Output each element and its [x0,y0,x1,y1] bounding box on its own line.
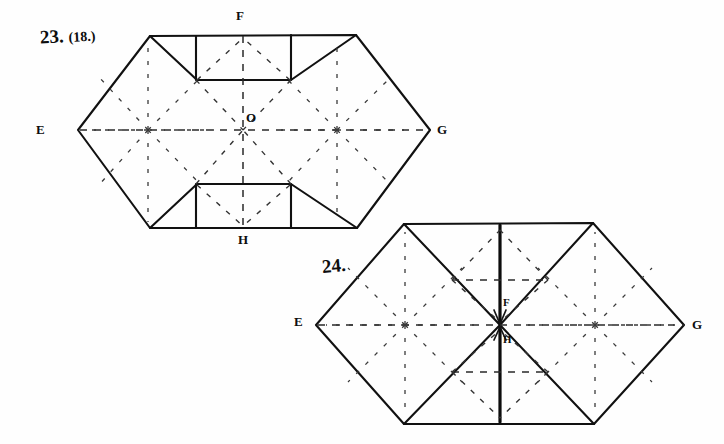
fig23-center-label-O: O [246,110,256,126]
fig24-lower-left-fold [404,325,500,424]
fig23-vertex-label-F: F [236,8,244,24]
fig23-left-star-creases [84,40,214,222]
figure-23-number: 23. (18.) [39,24,95,49]
fig24-right-star-creases [520,232,674,416]
fig23-vertex-label-H: H [238,232,248,248]
fig24-upper-left-fold [404,224,500,325]
fig24-upper-right-fold [500,223,593,325]
fig24-vertex-label-H: H [503,333,512,345]
fig23-top-left-diagonal [150,36,197,80]
figure-24-group [316,223,684,424]
fig24-vertex-label-G: G [692,317,702,333]
fig23-vertex-label-G: G [437,122,447,138]
fig23-top-flap-creases [197,38,290,80]
fig23-vertex-label-E: E [36,122,45,138]
fig23-bottom-left-diagonal [150,184,197,228]
paper-sheet: 23. (18.) E G F H O 24. E G F H [0,0,724,444]
fig24-vertex-label-E: E [294,314,303,330]
figure-23-number-text: 23. [39,25,64,47]
fig23-top-right-diagonal [291,35,356,80]
fig24-lower-right-fold [500,325,594,424]
diagram-canvas [0,0,724,444]
fig23-hexagon-outline [78,35,430,228]
fig24-vertex-label-F: F [503,296,510,308]
fig24-left-star-creases [326,232,480,416]
fig23-bottom-right-diagonal [291,184,357,228]
figure-23-alt-number-text: (18.) [68,29,96,45]
figure-24-number-text: 24. [321,254,346,277]
figure-23-group [78,35,430,228]
figure-24-number: 24. [321,254,347,278]
